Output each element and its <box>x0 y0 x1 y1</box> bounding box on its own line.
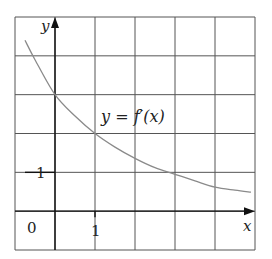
derivative-chart: y x 0 1 1 y = f′(x) <box>0 0 272 259</box>
origin-label: 0 <box>27 219 37 237</box>
x-axis-arrow-icon <box>244 207 255 215</box>
grid-lines <box>15 17 255 250</box>
y-axis-label: y <box>40 17 50 35</box>
x-axis-label: x <box>243 217 252 235</box>
curve-label: y = f′(x) <box>100 107 165 126</box>
y-tick-label-1: 1 <box>36 164 46 182</box>
x-tick-label-1: 1 <box>91 222 101 240</box>
y-axis-arrow-icon <box>51 17 59 28</box>
